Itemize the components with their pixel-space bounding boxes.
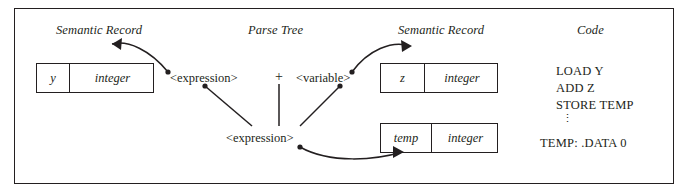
connector-layer (0, 0, 691, 194)
arrow-expression-root-to-record-temp (300, 147, 402, 159)
connector-dot-expression-left-child (202, 83, 207, 88)
line-expression-left-to-root (205, 86, 252, 126)
connector-dot-expression-root (297, 144, 302, 149)
arrowhead-to-record-temp (393, 146, 404, 158)
connector-dot-variable (349, 69, 354, 74)
connector-dot-expression-left (165, 69, 170, 74)
arrow-variable-to-record-z (352, 44, 410, 72)
line-variable-to-root (300, 86, 340, 126)
arrowhead-to-record-z (401, 40, 412, 52)
connector-dot-variable-child (337, 83, 342, 88)
arrowhead-to-record-y (112, 38, 122, 50)
diagram-canvas: Semantic Record Parse Tree Semantic Reco… (0, 0, 691, 194)
